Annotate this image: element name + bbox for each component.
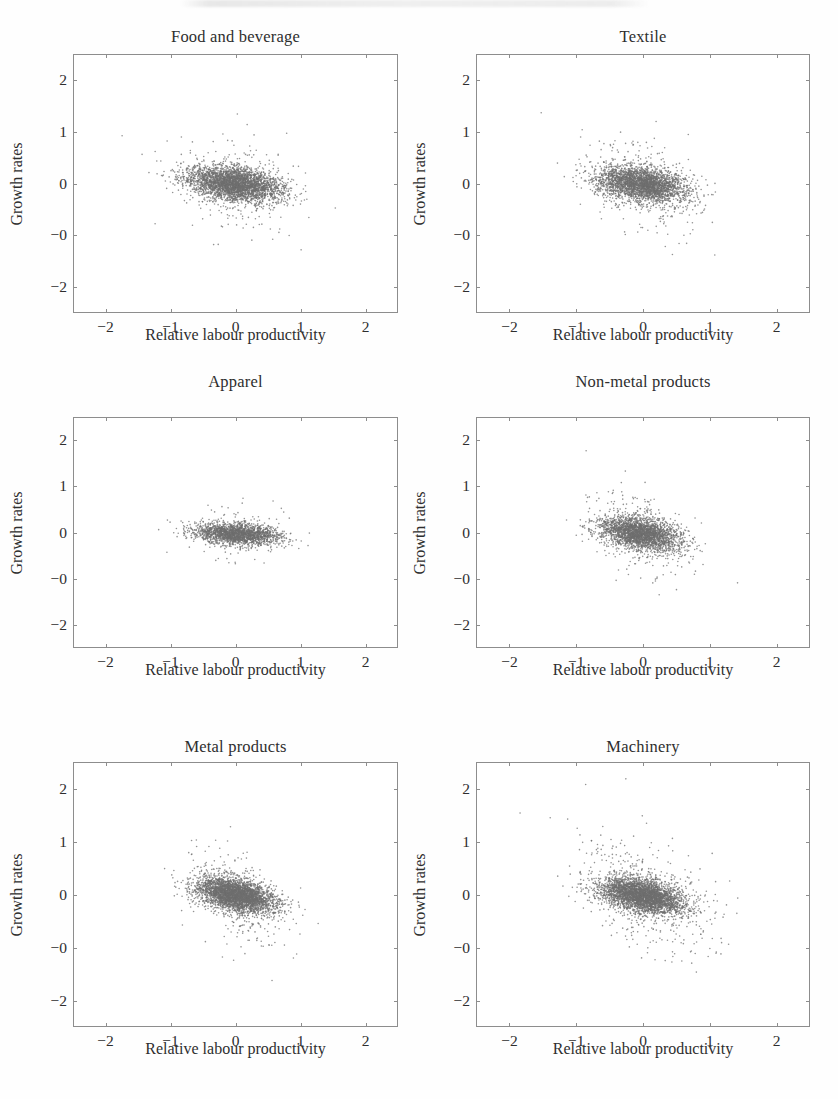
y-tick-right-non_metal-0 [806, 440, 810, 441]
x-tick-label-food_beverage-2: 0 [232, 318, 240, 336]
y-tick-right-non_metal-3 [806, 579, 810, 580]
x-tick-label-metal-3: 1 [297, 1032, 305, 1050]
x-axis-title-machinery: Relative labour productivity [476, 1040, 810, 1058]
y-tick-machinery-2 [476, 895, 480, 896]
y-tick-label-food_beverage-1: 1 [39, 123, 67, 141]
y-tick-label-food_beverage-4: −2 [39, 278, 67, 296]
y-tick-label-metal-0: 2 [39, 780, 67, 798]
y-tick-label-apparel-1: 1 [39, 477, 67, 495]
scatter-points-metal [74, 763, 398, 1027]
x-tick-top-non_metal-1 [576, 417, 577, 421]
y-tick-metal-0 [73, 789, 77, 790]
x-tick-top-metal-1 [171, 762, 172, 766]
x-tick-label-food_beverage-1: −1 [162, 318, 179, 336]
x-tick-top-food_beverage-4 [366, 54, 367, 58]
x-tick-textile-2 [643, 309, 644, 313]
panel-title-machinery: Machinery [476, 737, 810, 757]
x-tick-top-textile-2 [643, 54, 644, 58]
y-tick-right-metal-4 [394, 1001, 398, 1002]
x-tick-label-apparel-1: −1 [162, 653, 179, 671]
x-tick-top-non_metal-0 [509, 417, 510, 421]
x-tick-top-machinery-0 [509, 762, 510, 766]
y-tick-food_beverage-4 [73, 287, 77, 288]
y-tick-textile-0 [476, 80, 480, 81]
y-tick-right-machinery-2 [806, 895, 810, 896]
x-tick-apparel-3 [301, 644, 302, 648]
x-tick-label-non_metal-4: 2 [773, 653, 781, 671]
y-tick-right-non_metal-4 [806, 625, 810, 626]
y-tick-label-machinery-2: 0 [442, 886, 470, 904]
x-tick-metal-3 [301, 1023, 302, 1027]
x-tick-label-non_metal-0: −2 [501, 653, 518, 671]
y-tick-label-non_metal-4: −2 [442, 616, 470, 634]
y-tick-label-apparel-0: 2 [39, 431, 67, 449]
x-tick-top-metal-2 [236, 762, 237, 766]
x-tick-non_metal-2 [643, 644, 644, 648]
y-tick-right-apparel-1 [394, 486, 398, 487]
y-axis-title-food_beverage: Growth rates [8, 142, 26, 225]
x-tick-top-apparel-3 [301, 417, 302, 421]
x-tick-top-food_beverage-2 [236, 54, 237, 58]
x-tick-food_beverage-1 [171, 309, 172, 313]
x-tick-metal-4 [366, 1023, 367, 1027]
x-tick-label-machinery-3: 1 [706, 1032, 714, 1050]
x-tick-label-food_beverage-3: 1 [297, 318, 305, 336]
y-axis-title-textile: Growth rates [411, 142, 429, 225]
y-tick-apparel-0 [73, 440, 77, 441]
x-tick-label-textile-1: −1 [568, 318, 585, 336]
plot-area-non_metal [476, 417, 810, 648]
panel-title-food_beverage: Food and beverage [73, 27, 398, 47]
x-tick-textile-1 [576, 309, 577, 313]
y-tick-label-textile-3: −0 [442, 226, 470, 244]
y-tick-label-food_beverage-2: 0 [39, 175, 67, 193]
x-axis-title-apparel: Relative labour productivity [73, 661, 398, 679]
x-tick-non_metal-4 [777, 644, 778, 648]
x-axis-title-textile: Relative labour productivity [476, 326, 810, 344]
x-tick-apparel-1 [171, 644, 172, 648]
y-tick-label-non_metal-1: 1 [442, 477, 470, 495]
x-tick-label-textile-0: −2 [501, 318, 518, 336]
x-tick-top-machinery-4 [777, 762, 778, 766]
x-tick-top-textile-1 [576, 54, 577, 58]
y-tick-right-metal-1 [394, 842, 398, 843]
y-tick-right-machinery-0 [806, 789, 810, 790]
x-tick-apparel-0 [106, 644, 107, 648]
y-tick-right-machinery-4 [806, 1001, 810, 1002]
y-tick-machinery-3 [476, 948, 480, 949]
panel-title-non_metal: Non-metal products [476, 372, 810, 392]
x-tick-label-apparel-4: 2 [362, 653, 370, 671]
y-tick-label-apparel-4: −2 [39, 616, 67, 634]
scan-artifact-line [180, 0, 650, 7]
panel-title-metal: Metal products [73, 737, 398, 757]
x-tick-top-food_beverage-1 [171, 54, 172, 58]
plot-area-machinery [476, 762, 810, 1027]
figure-scatter-grid: Food and beverage−2−1012210−0−2Relative … [0, 0, 838, 1099]
y-axis-title-machinery: Growth rates [411, 853, 429, 936]
x-tick-label-apparel-3: 1 [297, 653, 305, 671]
y-tick-machinery-1 [476, 842, 480, 843]
x-tick-top-machinery-2 [643, 762, 644, 766]
x-tick-metal-1 [171, 1023, 172, 1027]
x-tick-label-apparel-2: 0 [232, 653, 240, 671]
x-tick-machinery-4 [777, 1023, 778, 1027]
y-tick-label-food_beverage-3: −0 [39, 226, 67, 244]
y-tick-right-textile-2 [806, 184, 810, 185]
x-tick-label-non_metal-1: −1 [568, 653, 585, 671]
x-tick-top-non_metal-2 [643, 417, 644, 421]
y-tick-right-food_beverage-0 [394, 80, 398, 81]
x-tick-label-metal-0: −2 [97, 1032, 114, 1050]
x-tick-non_metal-0 [509, 644, 510, 648]
x-tick-label-textile-3: 1 [706, 318, 714, 336]
x-tick-label-food_beverage-4: 2 [362, 318, 370, 336]
y-tick-right-non_metal-1 [806, 486, 810, 487]
y-tick-non_metal-2 [476, 533, 480, 534]
plot-area-apparel [73, 417, 398, 648]
x-axis-title-food_beverage: Relative labour productivity [73, 326, 398, 344]
panel-food_beverage: Food and beverage−2−1012210−0−2Relative … [0, 0, 838, 1099]
x-tick-top-metal-4 [366, 762, 367, 766]
y-tick-right-food_beverage-3 [394, 235, 398, 236]
y-tick-textile-4 [476, 287, 480, 288]
y-tick-label-machinery-1: 1 [442, 833, 470, 851]
y-tick-apparel-2 [73, 533, 77, 534]
y-tick-right-apparel-3 [394, 579, 398, 580]
